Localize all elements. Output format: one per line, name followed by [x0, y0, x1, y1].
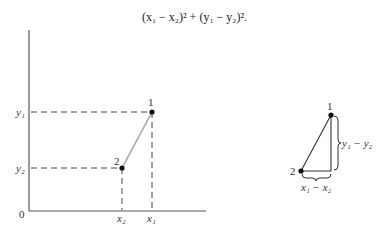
origin-label: 0 [19, 208, 25, 220]
triangle-vertex-2-label: 2 [290, 165, 296, 177]
triangle-shape [301, 115, 331, 171]
right-triangle: 1 2 y₁ − y₂ x₁ − x₂ [290, 100, 373, 193]
point-1-label: 1 [148, 96, 154, 108]
y2-label: y₂ [15, 162, 25, 174]
horizontal-brace [302, 174, 331, 181]
vertical-leg-label: y₁ − y₂ [341, 137, 373, 149]
triangle-vertex-2 [298, 168, 303, 173]
x2-label: x₂ [116, 212, 126, 224]
left-coordinate-plot: 1 2 y₁ y₂ 0 x₂ x₁ [15, 30, 206, 224]
x1-label: x₁ [146, 212, 156, 224]
point-1 [149, 109, 154, 114]
triangle-vertex-1-label: 1 [327, 100, 333, 112]
point-2-label: 2 [114, 155, 120, 167]
point-2 [119, 165, 124, 170]
vertical-brace [334, 116, 341, 170]
triangle-vertex-1 [328, 112, 333, 117]
horizontal-leg-label: x₁ − x₂ [300, 181, 332, 193]
y1-label: y₁ [15, 106, 25, 118]
distance-diagram: 1 2 y₁ y₂ 0 x₂ x₁ 1 2 y₁ − y₂ x₁ − x₂ [0, 0, 389, 229]
segment-1-2 [122, 112, 152, 168]
